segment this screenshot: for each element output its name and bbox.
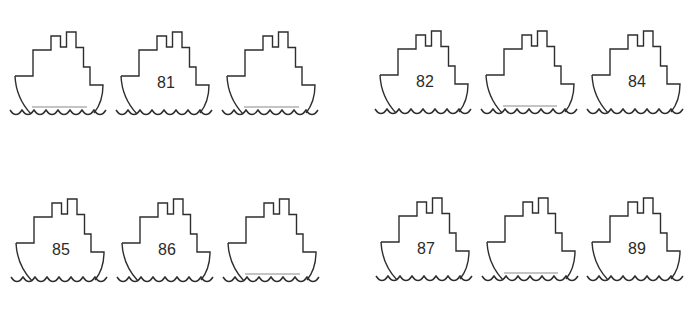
ship-r1-g1-2: 81: [116, 0, 216, 122]
ship-r2-g1-2: 86: [117, 167, 217, 289]
ship-icon: [116, 0, 216, 122]
ship-number: 87: [406, 240, 446, 258]
answer-input[interactable]: [504, 264, 563, 284]
ship-number: 89: [617, 240, 657, 258]
ship-icon: [11, 167, 111, 289]
ship-number: 85: [41, 241, 81, 259]
ship-r2-g1-3: [223, 167, 323, 289]
ship-r1-g1-3: [222, 0, 322, 122]
ship-number: 86: [147, 241, 187, 259]
answer-input[interactable]: [503, 97, 562, 117]
ship-r2-g2-1: 87: [376, 166, 476, 288]
answer-input[interactable]: [245, 265, 304, 285]
ship-icon: [376, 166, 476, 288]
ship-r2-g1-1: 85: [11, 167, 111, 289]
ship-number: 82: [405, 73, 445, 91]
ship-r2-g2-2: [482, 166, 582, 288]
ship-r1-g2-2: [481, 0, 581, 121]
ship-r1-g2-1: 82: [375, 0, 475, 121]
ship-icon: [587, 166, 687, 288]
number-sequence-worksheet: 81 82: [0, 0, 697, 332]
ship-r1-g1-1: [10, 0, 110, 122]
ship-r2-g2-3: 89: [587, 166, 687, 288]
ship-number: 81: [146, 74, 186, 92]
answer-input[interactable]: [244, 98, 303, 118]
ship-number: 84: [617, 73, 657, 91]
ship-icon: [587, 0, 687, 121]
ship-icon: [375, 0, 475, 121]
answer-input[interactable]: [32, 98, 91, 118]
ship-r1-g2-3: 84: [587, 0, 687, 121]
ship-icon: [117, 167, 217, 289]
